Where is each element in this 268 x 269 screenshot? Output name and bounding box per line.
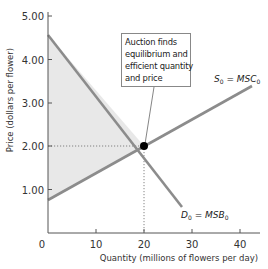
y-tick-label: 2.00 xyxy=(22,141,44,152)
demand-curve-label: D0 = MSB0 xyxy=(181,210,229,221)
equilibrium-point xyxy=(140,142,148,150)
x-tick-label: 30 xyxy=(186,239,199,250)
y-tick-label: 4.00 xyxy=(22,55,44,66)
callout-line: and price xyxy=(125,72,187,84)
x-tick-label: 10 xyxy=(90,239,103,250)
x-tick-label: 20 xyxy=(138,239,151,250)
annotation-callout: Auction finds equilibrium and efficient … xyxy=(121,33,191,87)
y-axis-title: Price (dollars per flower) xyxy=(5,48,15,152)
y-tick-label: 5.00 xyxy=(22,11,44,22)
y-tick-label: 3.00 xyxy=(22,98,44,109)
callout-pointer xyxy=(145,87,154,144)
callout-line: Auction finds xyxy=(125,36,187,48)
callout-line: efficient quantity xyxy=(125,60,187,72)
x-tick-label: 40 xyxy=(234,239,247,250)
x-axis-title: Quantity (millions of flowers per day) xyxy=(100,253,258,263)
x-tick-label: 0 xyxy=(39,239,45,250)
x-ticks xyxy=(96,229,240,233)
callout-line: equilibrium and xyxy=(125,48,187,60)
y-tick-label: 1.00 xyxy=(22,185,44,196)
supply-curve-label: S0 = MSC0 xyxy=(214,74,261,85)
